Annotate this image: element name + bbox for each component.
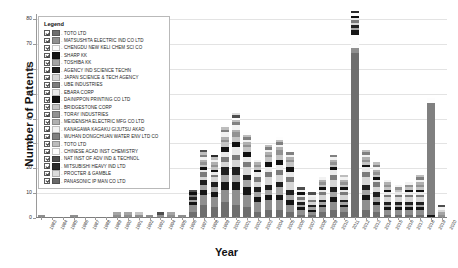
- bar-segment[interactable]: [254, 202, 262, 212]
- bar-segment[interactable]: [330, 175, 338, 180]
- legend-item[interactable]: -DAINIPPON PRINTING CO LTD: [44, 96, 165, 103]
- bar-segment[interactable]: [362, 200, 370, 210]
- bar-segment[interactable]: [351, 53, 359, 217]
- bar-segment[interactable]: [384, 205, 392, 207]
- bar-segment[interactable]: [221, 202, 229, 217]
- bar-segment[interactable]: [319, 177, 327, 179]
- bar-segment[interactable]: [286, 152, 294, 154]
- bar-segment[interactable]: [362, 172, 370, 177]
- bar-segment[interactable]: [405, 207, 413, 209]
- bar-segment[interactable]: [200, 165, 208, 167]
- bar-segment[interactable]: [276, 195, 284, 200]
- bar-segment[interactable]: [384, 202, 392, 204]
- bar-segment[interactable]: [211, 177, 219, 182]
- legend-checkbox[interactable]: [44, 149, 50, 155]
- bar-segment[interactable]: [340, 182, 348, 184]
- bar-segment[interactable]: [319, 207, 327, 212]
- bar-segment[interactable]: [254, 162, 262, 164]
- bar-segment[interactable]: [254, 170, 262, 172]
- bar-segment[interactable]: [416, 187, 424, 189]
- bar-segment[interactable]: [416, 207, 424, 209]
- bar-segment[interactable]: [221, 140, 229, 142]
- bar-segment[interactable]: [416, 205, 424, 207]
- bar-segment[interactable]: [438, 207, 446, 209]
- bar-segment[interactable]: [254, 172, 262, 177]
- bar-segment[interactable]: [276, 182, 284, 187]
- legend-checkbox[interactable]: [44, 141, 50, 147]
- bar-segment[interactable]: [189, 202, 197, 204]
- bar-segment[interactable]: [232, 122, 240, 124]
- bar-segment[interactable]: [232, 205, 240, 217]
- legend-item[interactable]: -TOTO LTD: [44, 30, 165, 37]
- bar-segment[interactable]: [405, 187, 413, 189]
- bar-segment[interactable]: [330, 210, 338, 217]
- bar-segment[interactable]: [189, 205, 197, 212]
- bar-segment[interactable]: [340, 200, 348, 202]
- bar-segment[interactable]: [254, 182, 262, 187]
- bar-segment[interactable]: [286, 205, 294, 212]
- bar-segment[interactable]: [340, 177, 348, 179]
- bar-segment[interactable]: [427, 98, 435, 103]
- bar-segment[interactable]: [330, 202, 338, 209]
- bar-segment[interactable]: [362, 165, 370, 167]
- legend-checkbox[interactable]: [44, 134, 50, 140]
- bar-segment[interactable]: [221, 190, 229, 202]
- bar-segment[interactable]: [221, 182, 229, 189]
- bar-segment[interactable]: [416, 210, 424, 215]
- bar-segment[interactable]: [297, 210, 305, 215]
- bar-segment[interactable]: [405, 185, 413, 187]
- bar-segment[interactable]: [351, 18, 359, 20]
- bar-segment[interactable]: [211, 170, 219, 172]
- bar-segment[interactable]: [276, 137, 284, 139]
- bar-segment[interactable]: [265, 195, 273, 200]
- bar-slot[interactable]: [198, 14, 209, 217]
- bar-segment[interactable]: [319, 192, 327, 194]
- bar-segment[interactable]: [319, 202, 327, 204]
- bar-segment[interactable]: [405, 202, 413, 204]
- bar-segment[interactable]: [286, 200, 294, 205]
- bar-segment[interactable]: [135, 212, 143, 214]
- bar-segment[interactable]: [319, 200, 327, 202]
- bar-segment[interactable]: [200, 177, 208, 179]
- bar-segment[interactable]: [427, 103, 435, 215]
- bar-segment[interactable]: [416, 192, 424, 194]
- bar-segment[interactable]: [254, 187, 262, 192]
- bar-segment[interactable]: [416, 182, 424, 184]
- bar-segment[interactable]: [243, 157, 251, 162]
- bar-segment[interactable]: [340, 205, 348, 207]
- bar-segment[interactable]: [340, 207, 348, 212]
- bar-segment[interactable]: [265, 155, 273, 157]
- legend-checkbox[interactable]: [44, 53, 50, 59]
- bar-segment[interactable]: [243, 180, 251, 187]
- bar-segment[interactable]: [232, 155, 240, 160]
- bar-segment[interactable]: [232, 142, 240, 147]
- bar-segment[interactable]: [232, 115, 240, 117]
- bar-segment[interactable]: [330, 162, 338, 164]
- bar-segment[interactable]: [211, 207, 219, 217]
- bar-segment[interactable]: [254, 192, 262, 197]
- bar-segment[interactable]: [200, 185, 208, 190]
- legend-item[interactable]: -KANAGAWA KAGAKU GIJUTSU AKAD: [44, 126, 165, 133]
- legend-item[interactable]: -TOTO LTD: [44, 140, 165, 147]
- bar-segment[interactable]: [319, 205, 327, 207]
- bar-segment[interactable]: [416, 195, 424, 197]
- bar-segment[interactable]: [265, 152, 273, 154]
- bar-segment[interactable]: [340, 192, 348, 194]
- legend-checkbox[interactable]: [44, 30, 50, 36]
- bar-segment[interactable]: [340, 195, 348, 200]
- legend-item[interactable]: -JAPAN SCIENCE & TECH AGENCY: [44, 74, 165, 81]
- bar-segment[interactable]: [373, 182, 381, 187]
- bar-segment[interactable]: [395, 192, 403, 194]
- bar-segment[interactable]: [373, 167, 381, 169]
- bar-segment[interactable]: [243, 152, 251, 157]
- bar-segment[interactable]: [405, 197, 413, 202]
- bar-segment[interactable]: [243, 175, 251, 180]
- bar-segment[interactable]: [297, 190, 305, 192]
- bar-segment[interactable]: [243, 135, 251, 137]
- bar-segment[interactable]: [384, 192, 392, 194]
- legend-checkbox[interactable]: [44, 90, 50, 96]
- bar-segment[interactable]: [200, 180, 208, 185]
- bar-segment[interactable]: [276, 187, 284, 194]
- bar-slot[interactable]: [371, 14, 382, 217]
- bar-segment[interactable]: [330, 187, 338, 192]
